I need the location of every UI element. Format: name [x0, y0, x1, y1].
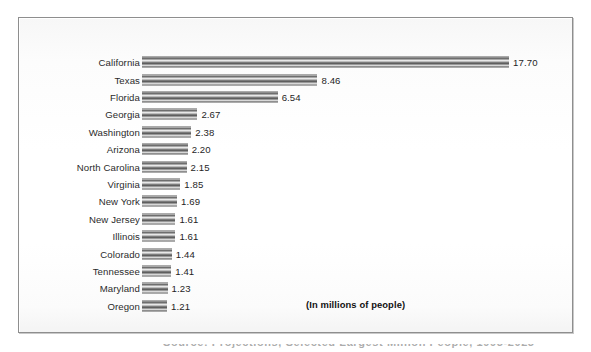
bar [142, 57, 509, 68]
bar-value-label: 2.38 [195, 126, 214, 137]
bar-row: Florida6.54 [19, 88, 574, 105]
bar [142, 161, 187, 172]
bar [142, 196, 177, 207]
bar-value-label: 1.61 [179, 213, 198, 224]
bar-row: New York1.69 [19, 193, 574, 210]
bar [142, 248, 172, 259]
bar-category-label: California [98, 57, 140, 68]
chart-frame: California17.70Texas8.46Florida6.54Georg… [18, 17, 573, 333]
bar-category-label: Washington [89, 126, 140, 137]
bar-category-label: Illinois [113, 231, 140, 242]
bar-row: Maryland1.23 [19, 280, 574, 297]
bar-row: Tennessee1.41 [19, 262, 574, 279]
bar-category-label: Texas [114, 74, 140, 85]
bar-category-label: New Jersey [89, 213, 140, 224]
bar [142, 126, 191, 137]
bar-value-label: 17.70 [513, 57, 538, 68]
bar-row: Illinois1.61 [19, 228, 574, 245]
bar-category-label: North Carolina [77, 161, 140, 172]
bar-value-label: 1.44 [176, 248, 195, 259]
bar-row: Washington2.38 [19, 123, 574, 140]
bar-value-label: 2.67 [201, 109, 220, 120]
bar-row: North Carolina2.15 [19, 158, 574, 175]
bar [142, 109, 197, 120]
bar [142, 300, 167, 311]
bar-value-label: 6.54 [282, 91, 301, 102]
scanned-page: California17.70Texas8.46Florida6.54Georg… [0, 0, 591, 352]
bar-row: Colorado1.44 [19, 245, 574, 262]
bar [142, 178, 180, 189]
bar-value-label: 1.69 [181, 196, 200, 207]
bar-category-label: Arizona [107, 144, 140, 155]
figure-caption-text: Source: Projections, Selected Largest Mi… [163, 344, 535, 348]
bar-category-label: New York [99, 196, 140, 207]
bar-value-label: 1.23 [172, 283, 191, 294]
bar [142, 283, 168, 294]
bar [142, 74, 317, 85]
bar-row: New Jersey1.61 [19, 210, 574, 227]
bar-value-label: 2.15 [191, 161, 210, 172]
bar [142, 144, 188, 155]
bar [142, 265, 171, 276]
bar-category-label: Virginia [107, 178, 140, 189]
bar-category-label: Oregon [107, 300, 140, 311]
bar-row: Texas8.46 [19, 71, 574, 88]
bar-value-label: 1.21 [171, 300, 190, 311]
bar-value-label: 1.85 [184, 178, 203, 189]
bar-category-label: Maryland [100, 283, 140, 294]
bar-chart-plot-area: California17.70Texas8.46Florida6.54Georg… [19, 18, 574, 334]
bar-row: Oregon1.21 [19, 297, 574, 314]
figure-caption-cropped: Source: Projections, Selected Largest Mi… [163, 344, 583, 352]
bar-row: Arizona2.20 [19, 141, 574, 158]
bar-row: Virginia1.85 [19, 175, 574, 192]
bar-value-label: 1.61 [179, 231, 198, 242]
bar [142, 231, 175, 242]
bar [142, 213, 175, 224]
bar-value-label: 8.46 [321, 74, 340, 85]
bar-category-label: Georgia [105, 109, 140, 120]
bar-category-label: Tennessee [93, 265, 140, 276]
bar [142, 91, 278, 102]
bar-category-label: Colorado [100, 248, 140, 259]
bar-category-label: Florida [110, 91, 140, 102]
units-annotation: (In millions of people) [306, 299, 405, 310]
bar-row: Georgia2.67 [19, 106, 574, 123]
bar-row: California17.70 [19, 54, 574, 71]
bar-value-label: 2.20 [192, 144, 211, 155]
bar-value-label: 1.41 [175, 265, 194, 276]
